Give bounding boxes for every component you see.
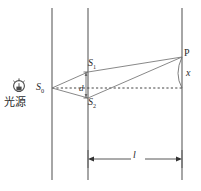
label-fringe-position-x: x	[186, 68, 190, 78]
label-slit-separation-d: d	[79, 84, 84, 93]
screen-distance-arrowhead-left	[88, 157, 94, 162]
ray-s2-to-p	[88, 57, 182, 98]
label-s0-subscript: 0	[41, 87, 44, 94]
ray-s1-to-p	[88, 57, 182, 72]
light-source-caption: 光源	[4, 97, 26, 108]
diagram-canvas	[0, 0, 201, 191]
label-s1: S1	[88, 58, 96, 70]
screen-distance-arrowhead-right	[176, 157, 182, 162]
double-slit-diagram: 光源 S0 S1 S2 P d x l	[0, 0, 201, 191]
label-s2: S2	[88, 97, 96, 109]
label-s2-subscript: 2	[93, 102, 96, 109]
label-s1-subscript: 1	[93, 63, 96, 70]
light-bulb-icon	[13, 78, 24, 91]
label-screen-distance-l: l	[133, 150, 136, 160]
label-s0: S0	[36, 82, 44, 94]
label-point-p: P	[184, 48, 190, 58]
